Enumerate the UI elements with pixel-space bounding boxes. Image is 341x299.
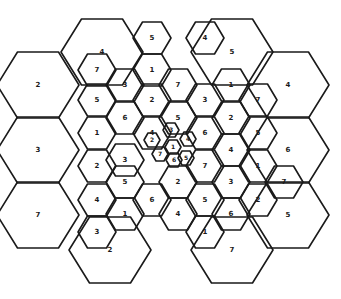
medium-label: 3	[203, 96, 208, 104]
medium-cell: 4	[186, 22, 224, 54]
medium-label: 4	[176, 210, 181, 218]
medium-cells-layer: 514717352376521465342715237465214631	[78, 22, 303, 248]
large-label: 3	[36, 146, 41, 154]
medium-label: 2	[95, 162, 100, 170]
medium-label: 5	[176, 114, 181, 122]
medium-label: 2	[176, 178, 181, 186]
medium-label: 2	[229, 114, 234, 122]
large-cell: 7	[191, 217, 273, 283]
medium-label: 5	[123, 178, 128, 186]
medium-label: 5	[95, 96, 100, 104]
medium-label: 1	[229, 81, 234, 89]
medium-cell: 5	[133, 22, 171, 54]
medium-cell: 2	[239, 184, 277, 216]
medium-label: 6	[150, 196, 155, 204]
medium-label: 1	[203, 228, 208, 236]
small-cell: 7	[152, 147, 168, 161]
medium-cell: 4	[159, 198, 197, 230]
medium-label: 1	[123, 210, 128, 218]
medium-label: 6	[203, 129, 208, 137]
medium-label: 3	[123, 81, 128, 89]
hexagon-diagram-svg: 4524367527 51471735237652146534271523746…	[0, 0, 341, 299]
large-cell: 5	[247, 182, 329, 248]
medium-cell: 6	[212, 198, 250, 230]
medium-cell: 7	[78, 54, 116, 86]
large-label: 5	[230, 48, 235, 56]
medium-label: 7	[282, 178, 287, 186]
large-cell: 3	[0, 117, 79, 183]
medium-label: 3	[123, 156, 128, 164]
large-label: 7	[230, 246, 235, 254]
small-cell: 2	[144, 133, 160, 147]
medium-label: 7	[203, 162, 208, 170]
large-label: 7	[36, 211, 41, 219]
large-label: 4	[286, 81, 291, 89]
small-label: 2	[150, 136, 154, 143]
medium-label: 7	[176, 81, 181, 89]
medium-cell: 1	[78, 117, 116, 149]
medium-label: 3	[95, 228, 100, 236]
medium-label: 5	[150, 34, 155, 42]
medium-cell: 7	[159, 69, 197, 101]
medium-label: 4	[203, 34, 208, 42]
large-label: 5	[286, 211, 291, 219]
small-cell: 4	[180, 132, 196, 146]
medium-cell: 3	[186, 84, 224, 116]
small-label: 4	[186, 135, 190, 142]
medium-label: 5	[203, 196, 208, 204]
medium-label: 1	[256, 162, 261, 170]
small-label: 1	[171, 143, 175, 150]
medium-label: 4	[229, 146, 234, 154]
medium-label: 5	[256, 129, 261, 137]
medium-cell: 2	[212, 102, 250, 134]
medium-cell: 5	[186, 184, 224, 216]
large-cell: 5	[191, 19, 273, 85]
medium-cell: 7	[239, 84, 277, 116]
medium-cell: 5	[239, 117, 277, 149]
medium-cell: 1	[186, 216, 224, 248]
medium-label: 7	[256, 96, 261, 104]
medium-cell: 2	[159, 166, 197, 198]
medium-cell: 6	[133, 184, 171, 216]
medium-label: 2	[256, 196, 261, 204]
large-label: 2	[36, 81, 41, 89]
large-label: 2	[108, 246, 113, 254]
medium-label: 2	[150, 96, 155, 104]
medium-label: 6	[123, 114, 128, 122]
small-label: 3	[169, 126, 173, 133]
medium-cell: 2	[133, 84, 171, 116]
medium-cell: 3	[212, 166, 250, 198]
large-cell: 7	[0, 182, 79, 248]
medium-label: 4	[95, 196, 100, 204]
large-label: 6	[286, 146, 291, 154]
small-label: 5	[184, 154, 188, 161]
medium-label: 1	[150, 66, 155, 74]
medium-label: 1	[95, 129, 100, 137]
medium-cell: 1	[239, 150, 277, 182]
hexagon-diagram: 4524367527 51471735237652146534271523746…	[0, 0, 341, 299]
medium-label: 7	[95, 66, 100, 74]
medium-cell: 4	[212, 134, 250, 166]
medium-label: 6	[229, 210, 234, 218]
medium-label: 3	[229, 178, 234, 186]
small-label: 6	[172, 156, 176, 163]
small-label: 7	[158, 150, 162, 157]
large-cell: 4	[247, 52, 329, 118]
